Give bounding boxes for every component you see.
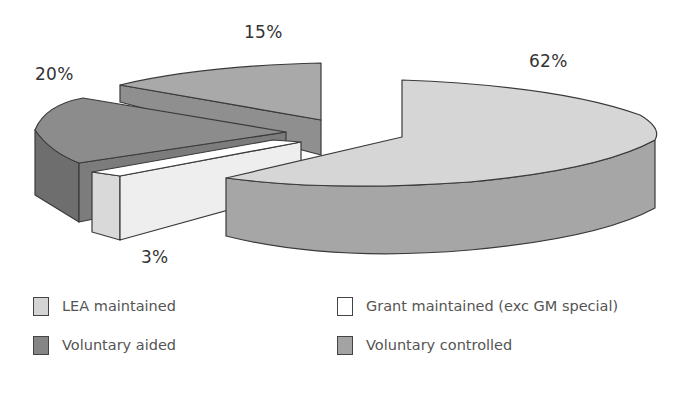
legend-label-controlled: Voluntary controlled (366, 337, 512, 353)
legend-swatch-controlled (337, 336, 353, 355)
legend-item-grant: Grant maintained (exc GM special) (337, 295, 618, 317)
legend-label-aided: Voluntary aided (62, 337, 176, 353)
label-lea-maintained: 62% (529, 51, 568, 71)
legend-swatch-aided (33, 336, 49, 355)
label-voluntary-aided: 20% (35, 64, 74, 84)
legend-item-lea: LEA maintained (33, 295, 176, 317)
legend-label-grant: Grant maintained (exc GM special) (366, 298, 618, 314)
legend-swatch-grant (337, 297, 353, 316)
legend-item-controlled: Voluntary controlled (337, 334, 512, 356)
label-voluntary-controlled: 15% (244, 22, 283, 42)
legend-label-lea: LEA maintained (62, 298, 176, 314)
label-grant-maintained: 3% (141, 247, 169, 267)
legend-swatch-lea (33, 297, 49, 316)
legend-item-aided: Voluntary aided (33, 334, 176, 356)
